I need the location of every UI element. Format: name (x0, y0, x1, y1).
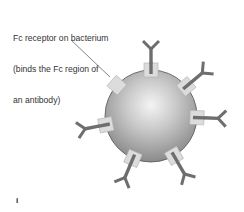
antibody-fc-stem (98, 124, 110, 126)
antibody-icon (203, 110, 227, 127)
antibody-icon (76, 118, 102, 138)
bacterium-diagram (0, 0, 244, 212)
pointer-line (71, 40, 110, 77)
panel-letter: i (16, 196, 18, 205)
antibody-icon (143, 41, 159, 64)
